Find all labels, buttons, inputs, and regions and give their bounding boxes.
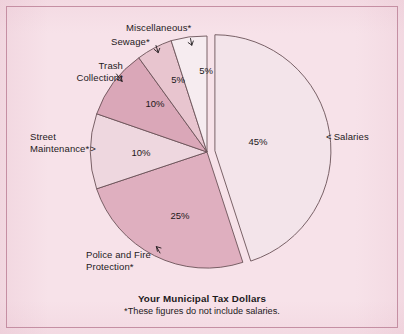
pie-label-street-maintenance-line2: Maintenance* bbox=[30, 143, 89, 155]
pie-label-street-maintenance-line1: Street bbox=[30, 131, 98, 143]
chart-title: Your Municipal Tax Dollars bbox=[0, 293, 404, 304]
pie-label-sewage: Sewage* bbox=[111, 36, 150, 48]
pie-label-salaries: < Salaries bbox=[326, 131, 369, 143]
slice-value-salaries: 45% bbox=[248, 136, 268, 147]
slice-value-street-maintenance: 10% bbox=[131, 147, 151, 158]
slice-value-sewage: 5% bbox=[171, 74, 185, 85]
pointer-arrow-salaries: < bbox=[326, 131, 332, 143]
pointer-arrow-street-maintenance: > bbox=[90, 143, 96, 155]
chart-figure: 45% 25% 10% 10% 5% 5% Miscellaneous* Sew… bbox=[0, 0, 404, 334]
pie-label-miscellaneous: Miscellaneous* bbox=[126, 22, 191, 34]
chart-footnote: *These figures do not include salaries. bbox=[0, 306, 404, 316]
pie-label-trash-collection-line2: Collection* bbox=[61, 72, 123, 84]
pie-label-police-and-fire: Police and Fire Protection* bbox=[86, 249, 166, 272]
pie-slice-salaries[interactable] bbox=[215, 35, 331, 261]
pie-label-trash-collection-line1: Trash bbox=[61, 60, 123, 72]
slice-value-police-and-fire: 25% bbox=[170, 210, 190, 221]
slice-value-trash-collection: 10% bbox=[145, 98, 165, 109]
slice-value-miscellaneous: 5% bbox=[199, 65, 213, 76]
pie-slice-salaries-group[interactable] bbox=[215, 35, 331, 261]
chart-caption: Your Municipal Tax Dollars *These figure… bbox=[0, 293, 404, 316]
pie-label-salaries-text: Salaries bbox=[334, 131, 369, 143]
pie-label-trash-collection: Trash Collection* bbox=[61, 60, 123, 83]
pie-label-police-and-fire-line2: Protection* bbox=[86, 261, 166, 273]
pie-label-police-and-fire-line1: Police and Fire bbox=[86, 249, 166, 261]
pie-chart: 45% 25% 10% 10% 5% 5% bbox=[0, 0, 404, 334]
pie-label-street-maintenance: Street Maintenance* > bbox=[30, 131, 98, 154]
